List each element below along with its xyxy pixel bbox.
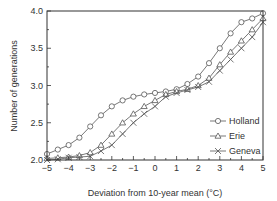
x-tick-label: 3 xyxy=(217,163,222,173)
y-tick-label: 4.0 xyxy=(30,6,43,16)
legend-item-holland: Holland xyxy=(210,116,260,126)
x-tick-label: −5 xyxy=(42,163,52,173)
x-tick-label: −3 xyxy=(85,163,95,173)
line-chart: −5−4−3−2−10123452.02.53.03.54.0 HollandE… xyxy=(0,0,277,201)
y-axis-label: Number of generations xyxy=(9,40,19,132)
x-tick-label: 0 xyxy=(152,163,157,173)
y-tick-label: 2.5 xyxy=(30,118,43,128)
y-tick-label: 2.0 xyxy=(30,155,43,165)
x-tick-label: −2 xyxy=(107,163,117,173)
svg-text:Geneva: Geneva xyxy=(229,146,261,156)
y-tick-label: 3.0 xyxy=(30,81,43,91)
x-tick-label: 2 xyxy=(196,163,201,173)
legend-item-erie: Erie xyxy=(210,131,245,141)
x-tick-label: 5 xyxy=(260,163,265,173)
svg-text:Erie: Erie xyxy=(229,131,245,141)
x-tick-label: −4 xyxy=(63,163,73,173)
svg-text:Holland: Holland xyxy=(229,116,260,126)
x-tick-label: 4 xyxy=(239,163,244,173)
y-tick-label: 3.5 xyxy=(30,43,43,53)
legend-item-geneva: Geneva xyxy=(210,146,261,156)
x-tick-label: 1 xyxy=(174,163,179,173)
legend: HollandErieGeneva xyxy=(210,116,261,156)
x-tick-label: −1 xyxy=(128,163,138,173)
x-axis-label: Deviation from 10-year mean (°C) xyxy=(88,188,223,198)
